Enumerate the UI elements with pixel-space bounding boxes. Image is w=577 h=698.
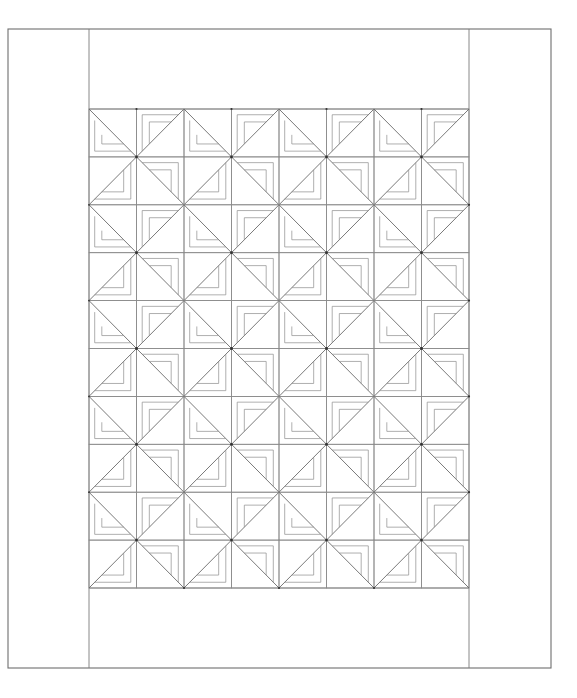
block-diagonal xyxy=(89,349,137,397)
block-diagonal xyxy=(89,301,137,349)
pinwheel-center-dot xyxy=(135,443,138,446)
quilt-block xyxy=(279,540,327,588)
block-diagonal xyxy=(422,396,470,444)
quilt-block xyxy=(327,301,375,349)
pinwheel-center-dot xyxy=(135,347,138,350)
block-diagonal xyxy=(232,492,280,540)
quilt-block xyxy=(184,109,232,157)
edge-vertex-dot xyxy=(278,587,280,589)
pinwheel-center-dot xyxy=(135,156,138,159)
block-diagonal xyxy=(232,301,280,349)
quilt-block xyxy=(422,253,470,301)
quilt-block xyxy=(422,301,470,349)
quilt-block xyxy=(279,396,327,444)
block-diagonal xyxy=(327,109,375,157)
quilt-block xyxy=(422,205,470,253)
block-diagonal xyxy=(374,157,422,205)
block-diagonal xyxy=(327,349,375,397)
quilt-block xyxy=(184,396,232,444)
quilt-block xyxy=(137,157,185,205)
block-diagonal xyxy=(422,253,470,301)
pinwheel-center-dot xyxy=(135,251,138,254)
quilt-block xyxy=(327,492,375,540)
quilt-block xyxy=(137,396,185,444)
quilt-block xyxy=(374,349,422,397)
block-diagonal xyxy=(279,540,327,588)
quilt-block xyxy=(232,396,280,444)
block-diagonal xyxy=(137,253,185,301)
block-diagonal xyxy=(137,109,185,157)
edge-vertex-dot xyxy=(373,587,375,589)
block-diagonal xyxy=(184,540,232,588)
quilt-block xyxy=(232,444,280,492)
pinwheel-center-dot xyxy=(420,443,423,446)
quilt-block xyxy=(422,157,470,205)
block-diagonal xyxy=(422,109,470,157)
block-diagonal xyxy=(184,109,232,157)
quilt-block xyxy=(184,301,232,349)
block-diagonal xyxy=(232,349,280,397)
quilt-block xyxy=(279,301,327,349)
block-diagonal xyxy=(422,205,470,253)
quilt-block xyxy=(327,349,375,397)
quilt-block xyxy=(232,492,280,540)
pinwheel-center-dot xyxy=(325,347,328,350)
quilt-block-grid xyxy=(88,108,470,589)
block-diagonal xyxy=(279,349,327,397)
block-diagonal xyxy=(374,492,422,540)
block-diagonal xyxy=(327,540,375,588)
block-diagonal xyxy=(422,444,470,492)
quilt-block xyxy=(422,540,470,588)
quilt-block xyxy=(89,444,137,492)
block-diagonal xyxy=(327,157,375,205)
pinwheel-center-dot xyxy=(325,443,328,446)
block-diagonal xyxy=(279,444,327,492)
block-diagonal xyxy=(279,301,327,349)
block-diagonal xyxy=(232,253,280,301)
block-diagonal xyxy=(327,301,375,349)
quilt-block xyxy=(279,253,327,301)
block-diagonal xyxy=(327,253,375,301)
block-diagonal xyxy=(184,157,232,205)
block-diagonal xyxy=(279,109,327,157)
block-diagonal xyxy=(184,301,232,349)
edge-vertex-dot xyxy=(88,204,90,206)
edge-vertex-dot xyxy=(420,108,422,110)
block-diagonal xyxy=(137,301,185,349)
block-diagonal xyxy=(184,349,232,397)
pinwheel-center-dot xyxy=(230,251,233,254)
block-diagonal xyxy=(422,349,470,397)
quilt-block xyxy=(232,301,280,349)
edge-vertex-dot xyxy=(468,300,470,302)
edge-vertex-dot xyxy=(88,300,90,302)
block-diagonal xyxy=(232,205,280,253)
pinwheel-center-dot xyxy=(230,539,233,542)
quilt-block xyxy=(137,253,185,301)
block-diagonal xyxy=(137,396,185,444)
block-diagonal xyxy=(279,492,327,540)
block-diagonal xyxy=(232,157,280,205)
quilt-block xyxy=(137,349,185,397)
block-diagonal xyxy=(279,157,327,205)
quilt-block xyxy=(422,396,470,444)
quilt-block xyxy=(374,444,422,492)
block-diagonal xyxy=(89,253,137,301)
quilt-block xyxy=(184,349,232,397)
quilt-block xyxy=(89,540,137,588)
quilt-block xyxy=(279,109,327,157)
block-diagonal xyxy=(327,492,375,540)
quilt-block xyxy=(89,157,137,205)
quilt-block xyxy=(89,349,137,397)
block-diagonal xyxy=(279,253,327,301)
edge-vertex-dot xyxy=(183,587,185,589)
block-diagonal xyxy=(279,205,327,253)
quilt-block xyxy=(327,396,375,444)
block-diagonal xyxy=(89,396,137,444)
block-diagonal xyxy=(89,492,137,540)
quilt-block xyxy=(374,205,422,253)
edge-vertex-dot xyxy=(468,204,470,206)
quilt-block xyxy=(279,492,327,540)
block-diagonal xyxy=(327,396,375,444)
quilt-block xyxy=(232,157,280,205)
block-diagonal xyxy=(422,492,470,540)
